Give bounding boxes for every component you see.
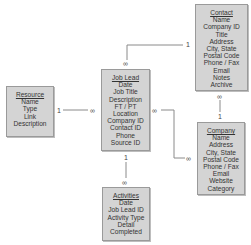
entity-field: FT / PT	[102, 103, 149, 110]
entity-field: Archive	[196, 81, 247, 88]
entity-field: Location	[102, 110, 149, 117]
entity-field: Date	[102, 81, 149, 88]
entity-field: Activity Type	[103, 214, 149, 221]
entity-field: Phone / Fax	[198, 163, 244, 170]
cardinality-jobleead-many-top: ∞	[123, 60, 128, 67]
entity-field: Name	[7, 98, 53, 105]
entity-field: Postal Code	[196, 52, 247, 59]
entity-field: Completed	[103, 228, 149, 235]
entity-field: Website	[198, 177, 244, 184]
cardinality-activities-many: ∞	[122, 179, 127, 186]
entity-title: Activities	[103, 192, 149, 199]
cardinality-company-one: 1	[218, 113, 222, 120]
entity-field: Category	[198, 185, 244, 192]
entity-field: Description	[102, 96, 149, 103]
entity-job-lead: Job Lead Date Job Title Description FT /…	[101, 69, 150, 151]
entity-field: Notes	[196, 74, 247, 81]
cardinality-contact-one: 1	[186, 41, 190, 48]
entity-field: Contact ID	[102, 124, 149, 131]
entity-company: Company Name Address City, State Postal …	[197, 122, 245, 195]
cardinality-jobleead-many-right: ∞	[152, 107, 157, 114]
entity-field: Job Lead ID	[103, 206, 149, 213]
entity-field: Title	[196, 31, 247, 38]
entity-field: Email	[198, 170, 244, 177]
entity-field: Name	[196, 16, 247, 23]
entity-field: City, State	[198, 149, 244, 156]
entity-field: Link	[7, 113, 53, 120]
entity-field: Email	[196, 67, 247, 74]
cardinality-resource-one: 1	[57, 107, 61, 114]
entity-field: Address	[196, 38, 247, 45]
entity-field: Phone / Fax	[196, 59, 247, 66]
cardinality-jobleead-one-bottom: 1	[124, 154, 128, 161]
cardinality-jobleead-many-left: ∞	[90, 107, 95, 114]
entity-field: Source ID	[102, 139, 149, 146]
entity-title: Contact	[196, 9, 247, 16]
entity-field: Postal Code	[198, 156, 244, 163]
cardinality-company-many: ∞	[186, 155, 191, 162]
entity-contact: Contact Name Company ID Title Address Ci…	[195, 4, 248, 91]
entity-field: Detail	[103, 221, 149, 228]
entity-field: Company ID	[102, 117, 149, 124]
entity-title: Resource	[7, 91, 53, 98]
entity-field: Description	[7, 120, 53, 127]
entity-field: Name	[198, 134, 244, 141]
entity-field: Company ID	[196, 23, 247, 30]
entity-field: Job Title	[102, 88, 149, 95]
entity-resource: Resource Name Type Link Description	[6, 86, 54, 137]
entity-field: Address	[198, 141, 244, 148]
entity-field: Date	[103, 199, 149, 206]
entity-title: Company	[198, 127, 244, 134]
entity-field: Type	[7, 105, 53, 112]
entity-field: City, State	[196, 45, 247, 52]
entity-title: Job Lead	[102, 74, 149, 81]
entity-activities: Activities Date Job Lead ID Activity Typ…	[102, 187, 150, 241]
cardinality-contact-many: ∞	[217, 93, 222, 100]
entity-field: Phone	[102, 132, 149, 139]
